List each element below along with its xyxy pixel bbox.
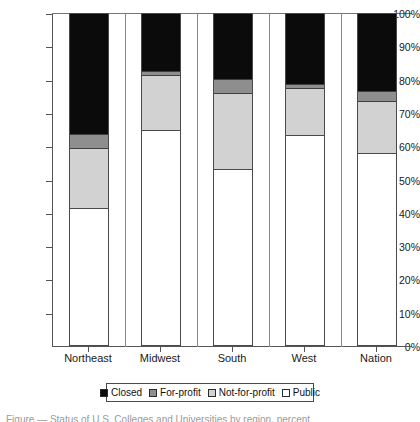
- x-axis-tick-mark: [88, 347, 89, 352]
- bar-segment-forprofit: [286, 84, 324, 89]
- bar-segment-notforprofit: [70, 149, 108, 209]
- category-separator: [269, 14, 270, 347]
- stacked-bar-west: [285, 13, 325, 346]
- legend-item-public: Public: [282, 388, 320, 398]
- category-separator: [197, 14, 198, 347]
- bar-segment-notforprofit: [286, 89, 324, 136]
- x-axis-tick-label: Nation: [336, 352, 416, 364]
- x-axis-tick-label: Northeast: [48, 352, 128, 364]
- legend-swatch-not-for-profit-icon: [208, 389, 216, 397]
- bar-segment-notforprofit: [142, 76, 180, 131]
- legend-label-public: Public: [293, 388, 320, 398]
- bar-segment-forprofit: [142, 71, 180, 76]
- legend-label-for-profit: For-profit: [160, 388, 201, 398]
- bar-segment-public: [286, 136, 324, 346]
- bar-segment-forprofit: [214, 79, 252, 94]
- category-separator: [341, 14, 342, 347]
- bar-segment-forprofit: [70, 134, 108, 149]
- legend-item-closed: Closed: [100, 388, 142, 398]
- x-axis-tick-mark: [160, 347, 161, 352]
- bar-segment-public: [142, 131, 180, 346]
- plot-area: [52, 14, 412, 347]
- stacked-bar-south: [213, 13, 253, 346]
- legend-label-closed: Closed: [111, 388, 142, 398]
- bar-segment-closed: [358, 14, 396, 91]
- bar-segment-public: [358, 154, 396, 346]
- legend-item-not-for-profit: Not-for-profit: [208, 388, 275, 398]
- bar-segment-closed: [70, 14, 108, 134]
- bar-segment-closed: [214, 14, 252, 79]
- bar-segment-closed: [286, 14, 324, 84]
- x-axis-tick-mark: [304, 347, 305, 352]
- legend-label-not-for-profit: Not-for-profit: [219, 388, 275, 398]
- x-axis-tick-label: Midwest: [120, 352, 200, 364]
- x-axis-tick-label: West: [264, 352, 344, 364]
- bar-segment-public: [70, 209, 108, 346]
- legend-swatch-for-profit-icon: [149, 389, 157, 397]
- bar-segment-notforprofit: [214, 94, 252, 171]
- stacked-bar-midwest: [141, 13, 181, 346]
- category-separator: [125, 14, 126, 347]
- legend-swatch-closed-icon: [100, 389, 108, 397]
- bar-segment-public: [214, 171, 252, 347]
- bar-segment-notforprofit: [358, 102, 396, 154]
- stacked-bar-nation: [357, 13, 397, 346]
- figure-caption: Figure — Status of U.S. Colleges and Uni…: [6, 414, 414, 422]
- x-axis-tick-mark: [232, 347, 233, 352]
- x-axis-tick-label: South: [192, 352, 272, 364]
- stacked-bar-northeast: [69, 13, 109, 346]
- bar-segment-closed: [142, 14, 180, 71]
- x-axis-tick-mark: [376, 347, 377, 352]
- legend-item-for-profit: For-profit: [149, 388, 201, 398]
- bar-segment-forprofit: [358, 91, 396, 103]
- chart-legend: Closed For-profit Not-for-profit Public: [106, 383, 314, 402]
- legend-swatch-public-icon: [282, 389, 290, 397]
- stacked-bar-chart: 100%90%80%70%60%50%40%30%20%10%0% Northe…: [0, 0, 420, 422]
